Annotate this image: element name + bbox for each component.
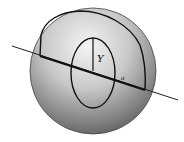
sphere-diagram: Y a xyxy=(0,0,184,142)
label-a: a xyxy=(121,74,125,81)
